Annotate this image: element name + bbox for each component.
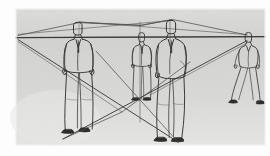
right-shoe — [143, 98, 151, 101]
front-shoe — [256, 101, 264, 104]
perspective-sketch-svg — [0, 0, 270, 156]
left-shoe — [62, 130, 74, 134]
highlight-patch — [10, 90, 100, 146]
back-shoe — [229, 100, 238, 103]
left-shoe — [154, 137, 167, 141]
perspective-drawing-canvas — [0, 0, 270, 156]
